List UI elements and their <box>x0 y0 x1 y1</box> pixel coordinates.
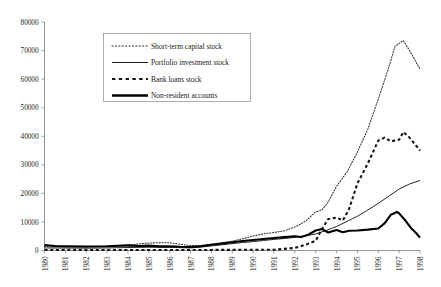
x-tick-labels: 1980198119821983198419851986198719881989… <box>42 256 426 271</box>
y-tick-label: 30000 <box>21 161 39 169</box>
y-tick-label: 70000 <box>21 47 39 55</box>
legend-label-non-resident-accounts: Non-resident accounts <box>151 91 217 100</box>
y-tick-label: 20000 <box>21 190 39 198</box>
x-tick-label: 1996 <box>375 256 383 271</box>
x-tick-label: 1985 <box>146 256 154 271</box>
y-tick-label: 60000 <box>21 76 39 84</box>
legend-label-bank-loans-stock: Bank loans stock <box>151 75 202 84</box>
x-tick-label: 1982 <box>83 256 91 271</box>
series-line-bank-loans-stock <box>45 132 421 250</box>
x-tick-label: 1986 <box>167 256 175 271</box>
x-tick-label: 1990 <box>250 256 258 271</box>
series-line-non-resident-accounts <box>45 212 421 247</box>
y-axis-group: 0100002000030000400005000060000700008000… <box>21 19 45 256</box>
x-tick-label: 1988 <box>208 256 216 271</box>
x-tick-label: 1994 <box>334 256 342 271</box>
y-tick-labels: 0100002000030000400005000060000700008000… <box>21 19 39 256</box>
x-tick-label: 1983 <box>104 256 112 271</box>
y-tick-label: 10000 <box>21 219 39 227</box>
x-tick-label: 1984 <box>125 256 133 271</box>
x-tick-label: 1993 <box>313 256 321 271</box>
x-axis-group: 1980198119821983198419851986198719881989… <box>42 251 426 271</box>
chart-container: 0100002000030000400005000060000700008000… <box>0 0 441 287</box>
x-tick-label: 1991 <box>271 256 279 271</box>
x-tick-label: 1992 <box>292 256 300 271</box>
y-tick-label: 0 <box>35 247 39 255</box>
x-tick-label: 1989 <box>229 256 237 271</box>
series-line-portfolio-investment-stock <box>45 181 421 249</box>
y-tick-label: 80000 <box>21 19 39 27</box>
x-tick-label: 1995 <box>354 256 362 271</box>
y-tick-label: 40000 <box>21 133 39 141</box>
y-tick-label: 50000 <box>21 104 39 112</box>
x-tick-label: 1997 <box>396 256 404 271</box>
x-tick-label: 1987 <box>188 256 196 271</box>
line-chart: 0100002000030000400005000060000700008000… <box>0 0 441 287</box>
legend: Short-term capital stock Portfolio inves… <box>104 34 251 102</box>
x-tick-label: 1998 <box>417 256 425 271</box>
legend-label-portfolio-investment-stock: Portfolio investment stock <box>151 58 229 67</box>
legend-label-short-term-capital-stock: Short-term capital stock <box>151 42 222 51</box>
x-tick-label: 1980 <box>42 256 50 271</box>
x-tick-label: 1981 <box>62 256 70 271</box>
